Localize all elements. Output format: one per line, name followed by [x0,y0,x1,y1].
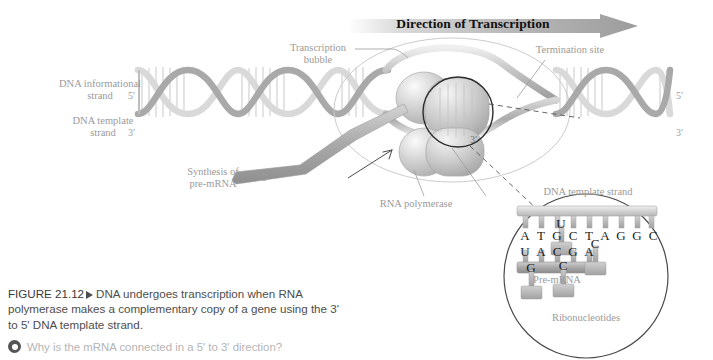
direction-arrow-label: Direction of Transcription [348,16,598,32]
pre-mrna-ribbon [232,104,408,184]
caption-triangle-icon [86,291,93,299]
figure-21-12: Direction of Transcription [0,0,713,360]
inset-template-strand-label: DNA template strand [518,186,658,197]
mrna-base-0: U [518,244,532,260]
label-dna-template-strand: DNA template strand [48,115,158,139]
template-base-0: A [518,228,532,244]
label-synthesis-of-pre-mrna: Synthesis of pre-mRNA [168,166,258,190]
prime-dna-right-bottom: 3′ [676,127,683,138]
template-base-1: T [534,228,548,244]
label-rna-polymerase: RNA polymerase [362,198,470,210]
inset-magnifier: DNA template strand ATGCTAGGC UACGA UCGC… [473,192,699,360]
template-base-7: G [630,228,644,244]
prime-dna-right-top: 5′ [676,90,683,101]
prime-polymerase-three: 3′ [470,134,477,145]
inset-premrna-label: Pre-mRNA [517,274,597,285]
label-dna-informational-strand: DNA informational strand [40,78,160,102]
label-termination-site: Termination site [520,44,620,56]
free-ribonucleotide-0: U [554,216,568,232]
template-base-6: G [614,228,628,244]
dna-duplex-left [138,67,388,117]
figure-number: FIGURE 21.12 [8,287,84,300]
figure-caption: FIGURE 21.12DNA undergoes transcription … [8,286,348,332]
free-ribonucleotide-3: C [556,258,570,274]
template-base-8: C [646,228,660,244]
inset-ribonucleotides-label: Ribonucleotides [531,312,641,323]
figure-question-row: Why is the mRNA connected in a 5' to 3' … [8,340,358,353]
mrna-base-1: A [534,244,548,260]
template-base-3: C [566,228,580,244]
prime-dna-left-bottom: 3′ [128,127,135,138]
rna-polymerase-complex [396,72,493,176]
question-bullet-icon [8,340,21,353]
prime-mrna-left: 5′ [262,172,269,183]
prime-dna-left-top: 5′ [128,90,135,101]
figure-question-text: Why is the mRNA connected in a 5' to 3' … [27,341,282,353]
free-ribonucleotide-1: C [588,236,602,252]
mrna-direction-arrow-icon [348,150,392,178]
dna-duplex-right [556,67,670,117]
label-transcription-bubble: Transcription bubble [278,42,358,66]
